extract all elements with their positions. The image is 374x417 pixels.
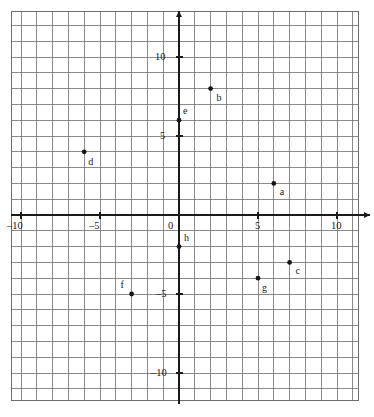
data-point-label-d: d [88,157,93,167]
x-axis-tick-label: 10 [331,221,342,232]
data-point-h [177,244,182,249]
x-axis-tick-label: –5 [89,221,100,232]
data-point-label-e: e [183,106,187,116]
data-point-label-f: f [121,280,124,290]
x-axis-tick-label: –10 [7,221,23,232]
data-point-label-b: b [217,93,222,103]
x-axis-arrow [364,212,370,218]
data-point-label-h: h [184,233,189,243]
data-point-g [256,276,261,281]
x-axis-tick-label: 5 [255,221,260,232]
axes [11,11,370,404]
y-axis-arrow [176,11,182,17]
data-point-c [287,260,292,265]
data-points [82,86,292,296]
data-point-a [271,181,276,186]
data-point-f [129,292,134,297]
data-point-e [177,118,182,123]
grid-lines [11,11,358,400]
data-point-label-c: c [296,266,300,276]
coordinate-plane-svg [0,0,374,417]
data-point-b [208,86,213,91]
y-axis-tick-label: –10 [151,368,167,379]
y-axis-tick-label: 10 [155,52,166,63]
y-axis-tick-label: 5 [160,131,165,142]
data-point-label-g: g [262,283,267,293]
x-axis-tick-label: 0 [168,221,173,232]
data-point-label-a: a [280,187,284,197]
data-point-d [82,149,87,154]
coordinate-plane-figure: –10–50510105–5–10 abcdefgh [0,0,374,417]
y-axis-tick-label: –5 [156,289,167,300]
